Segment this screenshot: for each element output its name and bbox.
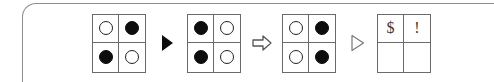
grid-4-cell-4[interactable]: [404, 43, 430, 72]
black-right-pointing-triangle-icon: [156, 32, 178, 54]
grid-3-cell-2[interactable]: [309, 15, 335, 44]
white-right-pointing-triangle-icon: [346, 32, 368, 54]
arrow-hollow-triangle: [336, 14, 377, 73]
hollow-circle-icon: [289, 50, 303, 64]
grid-1-cell-1[interactable]: [93, 15, 119, 44]
filled-circle-icon: [194, 21, 208, 35]
grid-1-cell-4[interactable]: [119, 43, 145, 72]
grid-2[interactable]: [187, 14, 241, 73]
grid-2-cell-1[interactable]: [188, 15, 214, 44]
grid-3-cell-3[interactable]: [283, 43, 309, 72]
hollow-circle-icon: [125, 50, 139, 64]
grid-3[interactable]: [282, 14, 336, 73]
grid-2-cell-3[interactable]: [188, 43, 214, 72]
filled-circle-icon: [99, 50, 113, 64]
grid-4-glyph: $: [387, 20, 395, 36]
filled-circle-icon: [315, 50, 329, 64]
grid-1[interactable]: [92, 14, 146, 73]
grid-3-cell-4[interactable]: [309, 43, 335, 72]
screenshot-stage: $!: [0, 0, 494, 82]
filled-circle-icon: [315, 21, 329, 35]
grid-3-cell-1[interactable]: [283, 15, 309, 44]
grid-2-cell-2[interactable]: [214, 15, 240, 44]
grid-1-cell-2[interactable]: [119, 15, 145, 44]
grid-4[interactable]: $!: [377, 14, 431, 73]
hollow-circle-icon: [220, 21, 234, 35]
filled-circle-icon: [125, 21, 139, 35]
hollow-block-right-arrow-icon: [251, 32, 273, 54]
arrow-solid-triangle: [146, 14, 187, 73]
grid-4-cell-2[interactable]: !: [404, 15, 430, 44]
filled-circle-icon: [194, 50, 208, 64]
grid-2-cell-4[interactable]: [214, 43, 240, 72]
grid-4-cell-1[interactable]: $: [378, 15, 404, 44]
grid-4-cell-3[interactable]: [378, 43, 404, 72]
grid-4-glyph: !: [414, 20, 419, 36]
puzzle-sequence: $!: [92, 13, 431, 73]
grid-1-cell-3[interactable]: [93, 43, 119, 72]
hollow-circle-icon: [220, 50, 234, 64]
hollow-circle-icon: [289, 21, 303, 35]
arrow-hollow-block: [241, 14, 282, 73]
hollow-circle-icon: [99, 21, 113, 35]
